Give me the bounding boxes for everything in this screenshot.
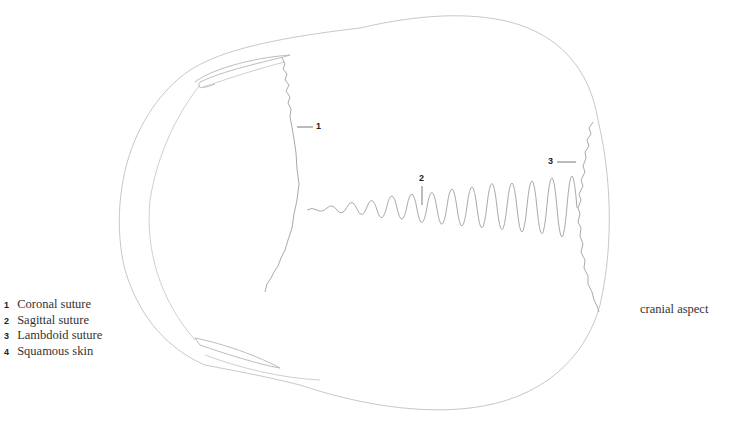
- legend-number: 1: [4, 298, 14, 313]
- legend-number: 2: [4, 314, 14, 329]
- legend-label: Coronal suture: [17, 297, 91, 311]
- legend-label: Squamous skin: [17, 344, 93, 358]
- legend-label: Lambdoid suture: [17, 328, 102, 342]
- squamous-upper-2: [200, 62, 285, 88]
- legend-label: Sagittal suture: [17, 313, 89, 327]
- callout-3: 3: [548, 156, 553, 166]
- lambdoid-suture: [578, 122, 599, 312]
- coronal-suture: [265, 58, 299, 292]
- sagittal-suture: [307, 176, 577, 237]
- skull-diagram: 1 2 3 1 Coronal suture 2 Sagittal suture…: [0, 0, 729, 428]
- callout-1: 1: [316, 121, 321, 131]
- legend-item-sagittal: 2 Sagittal suture: [4, 313, 102, 329]
- squamous-lower: [195, 338, 280, 368]
- callout-2: 2: [419, 173, 424, 183]
- legend: 1 Coronal suture 2 Sagittal suture 3 Lam…: [4, 297, 102, 359]
- skull-illustration: [0, 0, 729, 428]
- legend-item-squamous: 4 Squamous skin: [4, 344, 102, 360]
- skull-inner-rim: [149, 85, 200, 340]
- legend-number: 4: [4, 345, 14, 360]
- legend-item-coronal: 1 Coronal suture: [4, 297, 102, 313]
- legend-number: 3: [4, 329, 14, 344]
- legend-item-lambdoid: 3 Lambdoid suture: [4, 328, 102, 344]
- view-label: cranial aspect: [640, 302, 708, 317]
